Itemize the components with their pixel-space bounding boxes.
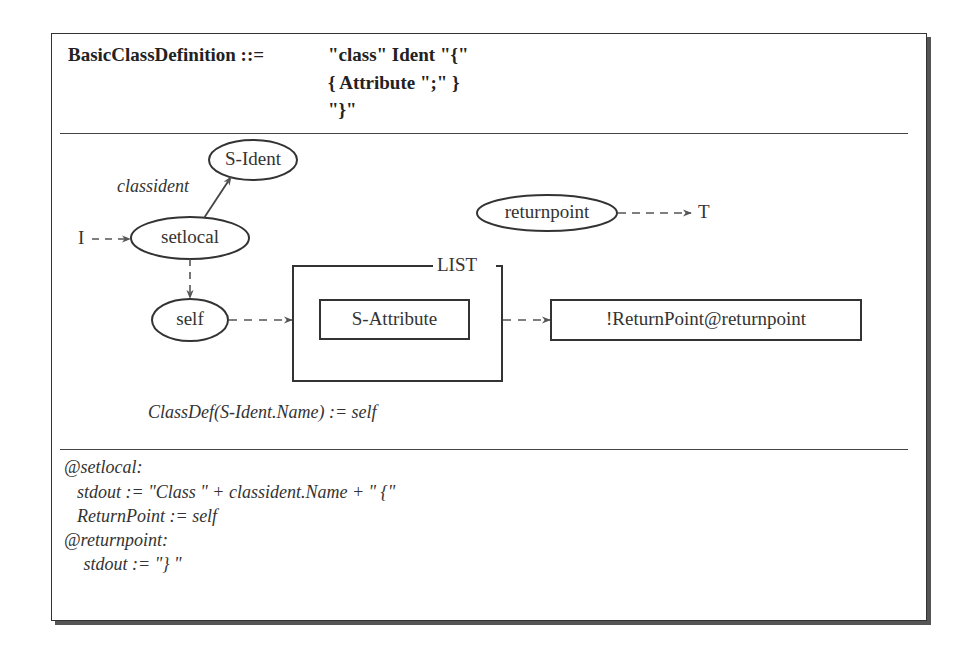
- label-s-attribute: S-Attribute: [320, 308, 469, 330]
- label-input-i: I: [78, 227, 84, 249]
- label-s-ident: S-Ident: [209, 148, 297, 170]
- label-terminal-t: T: [698, 201, 710, 223]
- edge-label-classident: classident: [117, 176, 189, 197]
- action-line-stdout-class: stdout := "Class " + classident.Name + "…: [68, 481, 395, 503]
- action-line-setlocal-header: @setlocal:: [64, 456, 143, 478]
- action-line-stdout-close: stdout := "} ": [70, 553, 181, 575]
- label-list: LIST: [437, 254, 477, 276]
- label-setlocal: setlocal: [131, 226, 249, 248]
- assignment-statement: ClassDef(S-Ident.Name) := self: [148, 402, 377, 423]
- action-line-returnpoint-header: @returnpoint:: [64, 529, 168, 551]
- label-return-point-call: !ReturnPoint@returnpoint: [551, 308, 861, 330]
- edge-setlocal-to-s-ident: [204, 177, 231, 218]
- action-line-returnpoint-assign: ReturnPoint := self: [68, 505, 217, 527]
- label-self: self: [152, 308, 228, 330]
- label-returnpoint: returnpoint: [477, 201, 617, 223]
